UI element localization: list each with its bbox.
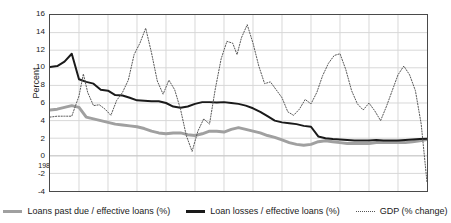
series-line-0 — [50, 106, 427, 146]
legend-label-gdp: GDP (% change) — [380, 206, 448, 216]
legend-swatch-gray-line — [3, 210, 22, 213]
plot-area — [49, 14, 428, 192]
legend-item-gdp: GDP (% change) — [356, 206, 448, 216]
chart-legend: Loans past due / effective loans (%) Loa… — [0, 199, 451, 223]
legend-label-loans-past-due: Loans past due / effective loans (%) — [27, 206, 170, 216]
legend-swatch-black-line — [186, 210, 205, 213]
data-series-layer — [50, 15, 427, 191]
legend-item-loans-past-due: Loans past due / effective loans (%) — [3, 206, 170, 216]
legend-swatch-dotted-line — [356, 211, 375, 212]
legend-label-loan-losses: Loan losses / effective loans (%) — [210, 206, 339, 216]
legend-item-loan-losses: Loan losses / effective loans (%) — [186, 206, 339, 216]
chart-figure: Percent 1614121086420-2-4 1986.11987.119… — [0, 0, 451, 223]
